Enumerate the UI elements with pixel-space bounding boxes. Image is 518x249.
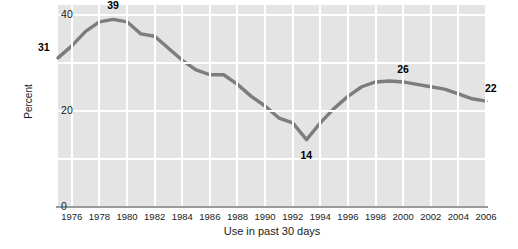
vertical-gridline [209,5,211,207]
vertical-gridline [430,5,432,207]
chart-figure: 02040 1976197819801982198419861988199019… [0,0,518,249]
data-point-label: 39 [107,0,119,11]
vertical-gridline [319,5,321,207]
horizontal-gridline [58,158,486,160]
x-tick-label: 2006 [469,211,503,222]
horizontal-gridline [58,110,486,112]
data-point-label: 14 [301,149,313,161]
data-point-label: 31 [38,41,50,53]
y-axis-title: Percent [23,67,34,137]
vertical-gridline [264,5,266,207]
vertical-gridline [292,5,294,207]
vertical-gridline [98,5,100,207]
y-tick-label: 40 [61,8,73,20]
data-point-label: 22 [485,82,497,94]
vertical-gridline [181,5,183,207]
horizontal-gridline [58,62,486,64]
vertical-gridline [126,5,128,207]
vertical-gridline [485,5,487,207]
x-axis-title: Use in past 30 days [58,225,486,237]
vertical-gridline [457,5,459,207]
data-series-line [58,5,486,207]
data-point-label: 26 [397,63,409,75]
plot-area [58,5,486,207]
horizontal-gridline [58,14,486,16]
vertical-gridline [154,5,156,207]
vertical-gridline [402,5,404,207]
y-tick-label: 20 [61,104,73,116]
vertical-gridline [236,5,238,207]
x-axis-line [56,206,488,208]
vertical-gridline [375,5,377,207]
vertical-gridline [347,5,349,207]
